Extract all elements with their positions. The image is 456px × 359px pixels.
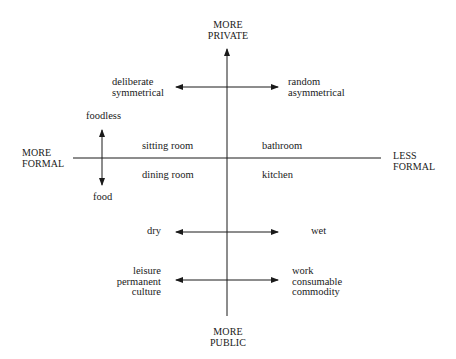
axis-label-left: MORE FORMAL bbox=[22, 148, 64, 169]
contrast-moisture-left-line1: dry bbox=[130, 226, 161, 237]
contrast-symmetry-right-line2: asymmetrical bbox=[288, 88, 345, 99]
room-dining-room: dining room bbox=[142, 170, 194, 181]
contrast-symmetry-left-line1: deliberate bbox=[112, 77, 164, 88]
room-sitting-room: sitting room bbox=[142, 141, 193, 152]
contrast-value-right-line3: commodity bbox=[292, 287, 342, 298]
axis-label-bottom: MORE PUBLIC bbox=[200, 327, 256, 348]
room-bathroom: bathroom bbox=[262, 141, 302, 152]
axis-label-top-line1: MORE bbox=[200, 20, 256, 31]
axis-label-right-line1: LESS bbox=[393, 151, 435, 162]
contrast-value-right: work consumable commodity bbox=[292, 266, 342, 298]
axis-label-left-line1: MORE bbox=[22, 148, 64, 159]
contrast-symmetry-right: random asymmetrical bbox=[288, 77, 345, 98]
contrast-value-left-line1: leisure bbox=[100, 266, 161, 277]
contrast-symmetry-left-line2: symmetrical bbox=[112, 88, 164, 99]
axis-label-bottom-line2: PUBLIC bbox=[200, 338, 256, 349]
axis-label-top: MORE PRIVATE bbox=[200, 20, 256, 41]
axis-label-right: LESS FORMAL bbox=[393, 151, 435, 172]
contrast-moisture-right-line1: wet bbox=[311, 226, 326, 237]
contrast-value-left: leisure permanent culture bbox=[100, 266, 161, 298]
diagram-lines bbox=[0, 0, 456, 359]
axis-label-top-line2: PRIVATE bbox=[200, 31, 256, 42]
room-kitchen: kitchen bbox=[262, 170, 293, 181]
food-label-food: food bbox=[93, 192, 112, 203]
contrast-moisture-right: wet bbox=[311, 226, 326, 237]
contrast-symmetry-right-line1: random bbox=[288, 77, 345, 88]
contrast-value-right-line1: work bbox=[292, 266, 342, 277]
axis-label-right-line2: FORMAL bbox=[393, 162, 435, 173]
contrast-value-left-line3: culture bbox=[100, 287, 161, 298]
contrast-moisture-left: dry bbox=[130, 226, 161, 237]
food-label-foodless: foodless bbox=[86, 111, 121, 122]
axis-label-bottom-line1: MORE bbox=[200, 327, 256, 338]
axis-label-left-line2: FORMAL bbox=[22, 159, 64, 170]
contrast-symmetry-left: deliberate symmetrical bbox=[112, 77, 164, 98]
